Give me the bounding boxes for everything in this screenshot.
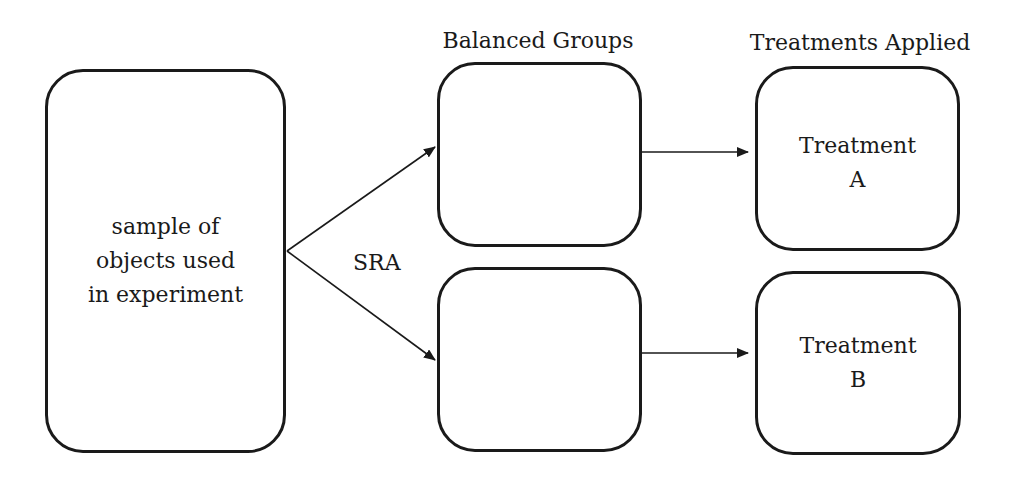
group-b-node bbox=[437, 267, 642, 452]
sample-line-2: objects used bbox=[96, 244, 235, 278]
balanced-groups-header: Balanced Groups bbox=[443, 28, 634, 53]
sra-label: SRA bbox=[353, 250, 401, 275]
treatments-applied-header: Treatments Applied bbox=[750, 30, 971, 55]
treatment-a-line-2: A bbox=[850, 163, 866, 197]
sample-line-3: in experiment bbox=[88, 278, 243, 312]
treatment-b-line-1: Treatment bbox=[799, 329, 916, 363]
sample-line-1: sample of bbox=[112, 210, 220, 244]
treatment-a-node: Treatment A bbox=[755, 66, 960, 251]
treatment-b-line-2: B bbox=[850, 363, 866, 397]
group-a-node bbox=[437, 62, 642, 247]
sample-node: sample of objects used in experiment bbox=[45, 69, 286, 453]
arrow-sample-to-group-a bbox=[287, 147, 435, 251]
treatment-a-line-1: Treatment bbox=[799, 129, 916, 163]
treatment-b-node: Treatment B bbox=[755, 271, 961, 455]
